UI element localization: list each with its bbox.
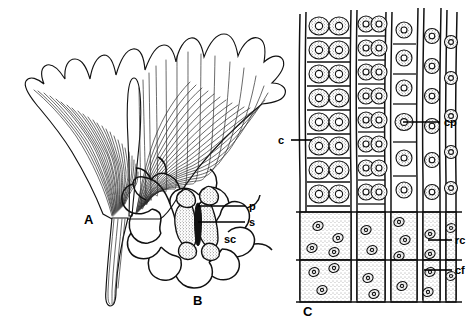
guard-cells [175,200,218,248]
callout-label-s: s [249,216,255,228]
figure-canvas: A [0,0,471,321]
callout-label-p: p [249,200,256,212]
panel-letter-c: C [303,304,313,319]
resin-cell [300,260,351,302]
stomatal-pore [195,203,202,246]
callout-label-c: c [278,134,284,146]
callout-label-rc: rc [455,234,465,246]
papilla-lower-right [202,243,220,260]
papilla-upper-left [177,190,196,208]
papilla-lower-left [179,242,197,259]
panel-letter-b: B [193,293,202,308]
panel-letter-a: A [84,212,94,227]
callout-label-cf: cf [455,264,465,276]
papilla-upper-right [200,187,219,205]
callout-label-sc: sc [224,233,236,245]
resin-cell [391,260,417,302]
botanical-figure: A [0,0,471,321]
resin-cell-zone [296,212,462,302]
callout-label-cp: cp [444,116,457,128]
